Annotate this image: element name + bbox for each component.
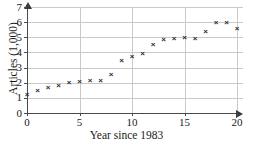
y-tick-mark xyxy=(24,7,27,8)
y-axis-title: Articles (1,000) xyxy=(7,9,20,109)
gridline-horizontal xyxy=(27,68,243,69)
y-tick-mark xyxy=(24,113,27,114)
data-point-marker: × xyxy=(181,34,188,41)
x-axis-line xyxy=(27,113,239,114)
y-tick-mark xyxy=(24,37,27,38)
scatter-chart: 05101520 01234567 ××××××××××××××××××××× … xyxy=(0,0,253,146)
gridline-horizontal xyxy=(27,22,243,23)
x-tick-label: 15 xyxy=(174,116,196,128)
data-point-marker: × xyxy=(139,50,146,57)
y-tick-label: 0 xyxy=(8,108,22,119)
data-point-marker: × xyxy=(129,53,136,60)
data-point-marker: × xyxy=(150,41,157,48)
data-point-marker: × xyxy=(66,79,73,86)
data-point-marker: × xyxy=(24,91,31,98)
gridline-vertical xyxy=(80,7,81,113)
x-tick-label: 5 xyxy=(69,116,91,128)
gridline-horizontal xyxy=(27,37,243,38)
gridline-horizontal xyxy=(27,7,243,8)
data-point-marker: × xyxy=(118,57,125,64)
data-point-marker: × xyxy=(45,84,52,91)
data-point-marker: × xyxy=(192,35,199,42)
gridline-vertical xyxy=(237,7,238,113)
x-axis-title: Year since 1983 xyxy=(0,129,253,142)
data-point-marker: × xyxy=(55,82,62,89)
data-point-marker: × xyxy=(76,78,83,85)
data-point-marker: × xyxy=(213,19,220,26)
y-tick-mark xyxy=(24,83,27,84)
y-tick-mark xyxy=(24,68,27,69)
data-point-marker: × xyxy=(202,28,209,35)
x-tick-label: 10 xyxy=(121,116,143,128)
gridline-vertical xyxy=(185,7,186,113)
gridline-horizontal xyxy=(27,98,243,99)
x-tick-label: 20 xyxy=(226,116,248,128)
y-tick-mark xyxy=(24,22,27,23)
y-tick-mark xyxy=(24,52,27,53)
data-point-marker: × xyxy=(34,87,41,94)
data-point-marker: × xyxy=(223,19,230,26)
plot-area: 05101520 01234567 ××××××××××××××××××××× xyxy=(0,0,253,146)
data-point-marker: × xyxy=(160,36,167,43)
data-point-marker: × xyxy=(234,25,241,32)
data-point-marker: × xyxy=(87,77,94,84)
data-point-marker: × xyxy=(108,71,115,78)
data-point-marker: × xyxy=(171,35,178,42)
data-point-marker: × xyxy=(97,77,104,84)
